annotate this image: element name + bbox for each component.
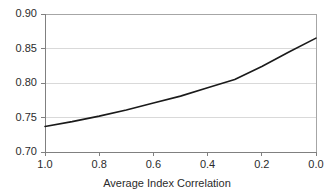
x-axis-tick-label: 0.0 — [299, 159, 333, 170]
x-axis-tick-label: 0.8 — [82, 159, 116, 170]
x-axis-tick-label: 0.2 — [245, 159, 279, 170]
x-axis-tick-label: 0.6 — [136, 159, 170, 170]
y-axis-tick-label: 0.85 — [5, 43, 37, 54]
y-axis-tick-label: 0.90 — [5, 8, 37, 19]
y-axis-tick-label: 0.75 — [5, 112, 37, 123]
x-axis-tick-label: 0.4 — [191, 159, 225, 170]
chart-container: 0.900.850.800.750.70 1.00.80.60.40.20.0 … — [0, 0, 334, 196]
data-line-value — [45, 38, 316, 126]
y-axis-tick-label: 0.80 — [5, 77, 37, 88]
data-series-group — [45, 38, 316, 126]
y-axis-tick-label: 0.70 — [5, 146, 37, 157]
x-axis-title: Average Index Correlation — [0, 177, 334, 189]
x-axis-tick-label: 1.0 — [28, 159, 62, 170]
axis-ticks — [41, 14, 316, 156]
